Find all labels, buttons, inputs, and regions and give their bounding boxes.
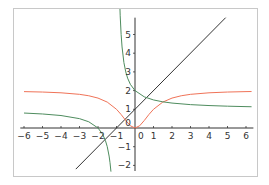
x-tick-label: −2: [91, 131, 104, 141]
x-tick-label: 3: [188, 131, 194, 141]
chart-svg: −6−5−4−3−2−10123456−2−1012345: [0, 0, 269, 185]
x-tick-label: 5: [225, 131, 231, 141]
y-tick-label: 1: [125, 104, 131, 114]
x-tick-label: 6: [243, 131, 249, 141]
x-tick-label: −1: [110, 131, 123, 141]
series-line-1: [24, 92, 252, 128]
x-tick-label: 0: [138, 131, 144, 141]
tick-labels: −6−5−4−3−2−10123456−2−1012345: [17, 30, 249, 171]
x-tick-label: −6: [17, 131, 31, 141]
series-layer: [24, 0, 252, 172]
axes: [20, 18, 253, 171]
x-tick-label: −5: [36, 131, 49, 141]
x-tick-label: 2: [169, 131, 175, 141]
x-tick-label: −3: [73, 131, 86, 141]
series-line-2: [24, 113, 111, 172]
series-line-3: [120, 0, 252, 107]
x-tick-label: 4: [206, 131, 212, 141]
y-tick-label: 0: [125, 118, 131, 128]
x-tick-label: −4: [54, 131, 68, 141]
y-tick-label: 5: [125, 30, 131, 40]
y-tick-label: 3: [125, 67, 131, 77]
y-tick-label: −2: [118, 160, 131, 170]
y-tick-label: 4: [125, 48, 131, 58]
y-tick-label: 2: [125, 86, 131, 96]
x-tick-label: 1: [151, 131, 157, 141]
y-tick-label: −1: [118, 142, 131, 152]
